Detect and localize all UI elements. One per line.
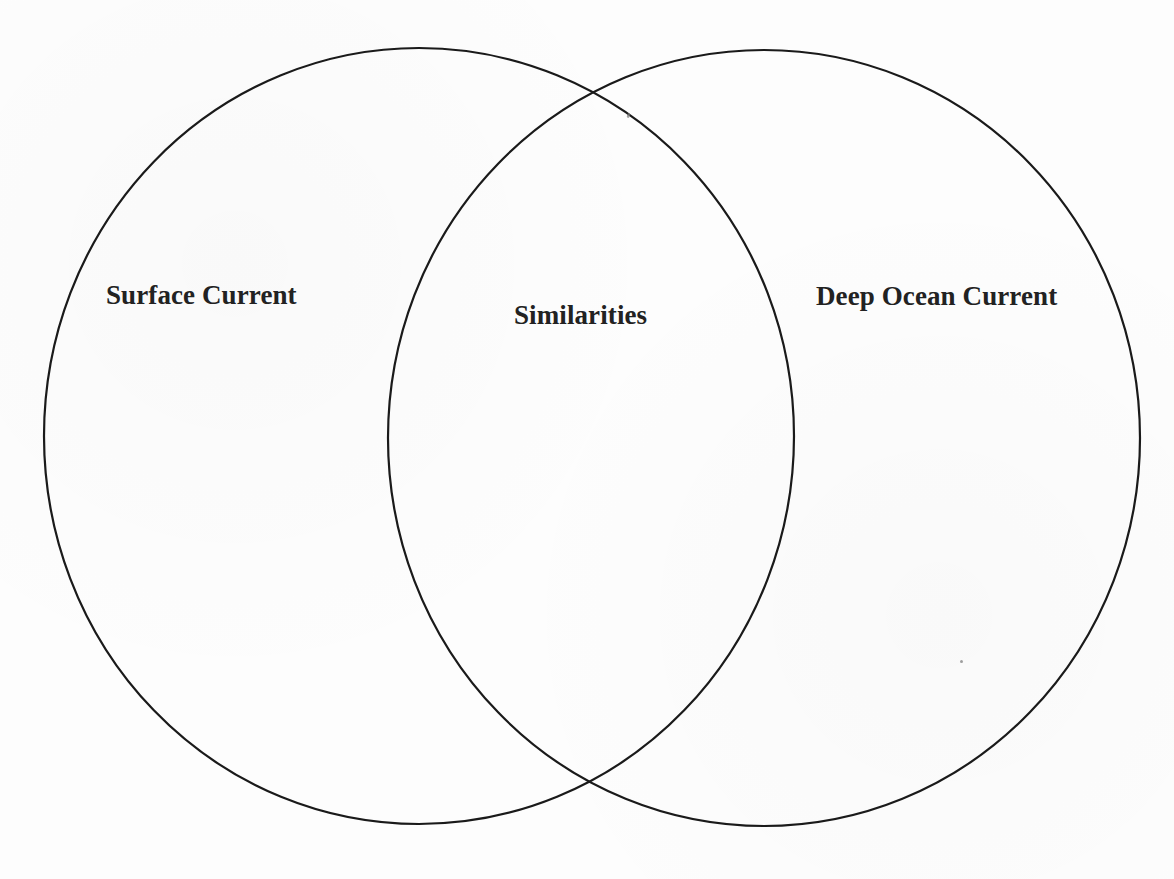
deep-ocean-current-label: Deep Ocean Current xyxy=(816,281,1057,312)
deep-ocean-current-circle xyxy=(388,50,1140,826)
paper-speck xyxy=(960,660,963,663)
similarities-label: Similarities xyxy=(514,300,647,331)
surface-current-label: Surface Current xyxy=(106,280,297,311)
surface-current-circle xyxy=(44,48,794,824)
venn-diagram-canvas: Surface Current Similarities Deep Ocean … xyxy=(0,0,1174,879)
venn-diagram xyxy=(0,0,1174,879)
